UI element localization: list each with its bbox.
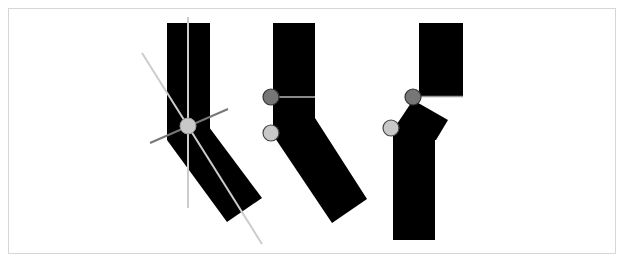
upper-block bbox=[419, 23, 463, 96]
lower-bar bbox=[393, 138, 435, 240]
figure-2 bbox=[263, 23, 367, 223]
pivot-joint-upper bbox=[263, 89, 279, 105]
pivot-joint-upper bbox=[405, 89, 421, 105]
pivot-joint-lower bbox=[263, 125, 279, 141]
rotated-cap bbox=[393, 100, 448, 140]
diagram-svg bbox=[0, 0, 623, 262]
pivot-joint-lower bbox=[383, 120, 399, 136]
lower-segment bbox=[273, 97, 367, 223]
figure-3 bbox=[383, 23, 463, 240]
diagram-canvas bbox=[0, 0, 623, 262]
pivot-joint bbox=[180, 118, 196, 134]
figure-1 bbox=[142, 17, 262, 244]
